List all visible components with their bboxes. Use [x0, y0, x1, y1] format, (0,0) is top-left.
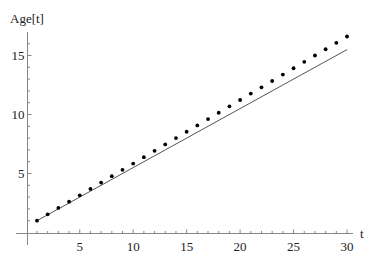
- fit-line: [37, 50, 347, 221]
- data-point: [249, 92, 253, 96]
- data-point: [345, 35, 349, 39]
- y-tick-label: 15: [12, 48, 25, 63]
- x-tick-label: 5: [77, 239, 84, 254]
- y-tick-label: 5: [18, 166, 25, 181]
- data-point: [99, 181, 103, 185]
- y-tick-label: 10: [12, 107, 25, 122]
- data-point: [121, 168, 125, 172]
- tick-labels: 5101520253051015: [12, 48, 354, 254]
- data-point: [270, 79, 274, 83]
- chart: 5101520253051015 Age[t] t: [0, 0, 374, 261]
- data-point: [334, 41, 338, 45]
- x-tick-label: 15: [180, 239, 193, 254]
- data-point: [238, 98, 242, 102]
- x-tick-label: 30: [341, 239, 354, 254]
- data-point: [217, 111, 221, 115]
- data-point: [131, 162, 135, 166]
- data-point: [313, 54, 317, 58]
- data-point: [56, 206, 60, 210]
- data-point: [302, 60, 306, 64]
- data-point: [292, 66, 296, 70]
- data-point: [163, 143, 167, 147]
- x-tick-label: 10: [127, 239, 140, 254]
- data-point: [281, 73, 285, 77]
- data-point: [110, 174, 114, 178]
- x-tick-label: 20: [234, 239, 247, 254]
- y-axis-label: Age[t]: [10, 11, 44, 26]
- data-point: [195, 124, 199, 128]
- axes: [16, 32, 353, 245]
- x-axis-label: t: [360, 226, 364, 241]
- data-points: [35, 35, 349, 223]
- line-series: [37, 50, 347, 221]
- data-point: [35, 219, 39, 223]
- data-point: [153, 149, 157, 153]
- data-point: [174, 136, 178, 140]
- data-point: [142, 155, 146, 159]
- data-point: [46, 212, 50, 216]
- data-point: [78, 193, 82, 197]
- data-point: [89, 187, 93, 191]
- data-point: [185, 130, 189, 134]
- x-tick-label: 25: [287, 239, 300, 254]
- data-point: [324, 47, 328, 51]
- data-point: [67, 200, 71, 204]
- ticks: [28, 44, 348, 234]
- data-point: [206, 117, 210, 121]
- data-point: [260, 85, 264, 89]
- data-point: [228, 104, 232, 108]
